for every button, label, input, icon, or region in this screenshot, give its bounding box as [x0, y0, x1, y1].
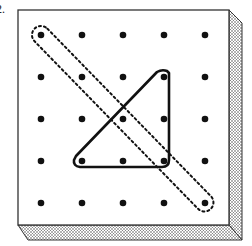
board-side-right: [229, 10, 242, 240]
geoboard-diagram: [0, 0, 252, 246]
board-side-bottom: [18, 225, 242, 240]
